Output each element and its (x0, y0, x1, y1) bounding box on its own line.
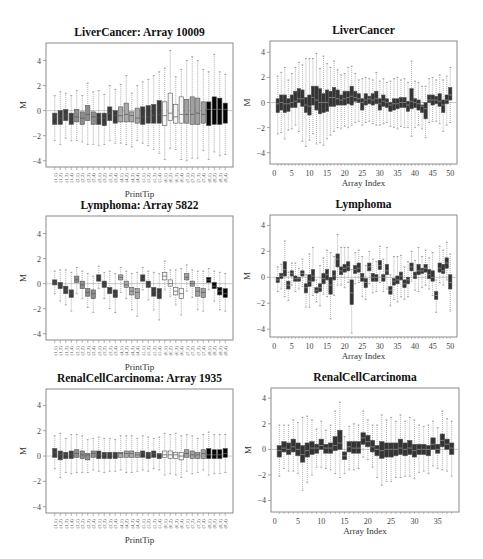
box-iqr (113, 452, 117, 458)
box-41 (420, 86, 423, 129)
box-27 (201, 69, 205, 150)
box-31 (223, 274, 227, 312)
box-iqr (389, 103, 392, 112)
box-iqr (152, 104, 156, 123)
box-8 (97, 266, 101, 289)
x-tick-label: 35 (393, 342, 401, 351)
box-36 (403, 267, 406, 299)
box-16 (332, 61, 335, 131)
box-10 (108, 271, 112, 309)
box-iqr (146, 106, 150, 124)
box-iqr (58, 451, 62, 460)
panel-renal-arrays: RenalCellCarcinoma420−2−4M05101520253035… (243, 371, 459, 536)
box-12 (318, 69, 321, 143)
y-tick-label: 2 (262, 420, 266, 429)
box-iqr (370, 440, 374, 452)
chart-title: LiverCancer (332, 24, 395, 36)
box-1 (280, 72, 283, 132)
x-tick-label: 20 (341, 342, 349, 351)
box-24 (389, 417, 393, 481)
box-17 (146, 437, 150, 471)
box-0 (276, 76, 279, 134)
box-31 (422, 426, 426, 471)
box-7 (91, 438, 95, 470)
box-28 (207, 432, 211, 475)
box-iqr (135, 289, 139, 299)
box-iqr (212, 450, 216, 459)
box-iqr (282, 442, 286, 452)
x-axis-label: PrintTip (125, 535, 155, 545)
box-iqr (297, 89, 300, 103)
box-27 (201, 435, 205, 470)
box-iqr (141, 451, 145, 457)
box-23 (384, 420, 388, 481)
box-iqr (325, 90, 328, 111)
box-21 (350, 270, 353, 334)
box-0 (277, 425, 281, 476)
box-28 (207, 269, 211, 290)
x-tick-label: 0 (272, 342, 276, 351)
box-14 (342, 437, 346, 474)
box-30 (382, 259, 385, 291)
box-11 (315, 54, 318, 144)
y-tick-label: 0 (261, 273, 265, 282)
box-9 (308, 59, 311, 141)
box-31 (385, 82, 388, 122)
box-24 (361, 79, 364, 125)
x-tick-label: 0 (272, 169, 276, 178)
box-6 (297, 268, 300, 289)
box-iqr (141, 275, 145, 281)
box-iqr (108, 452, 112, 458)
box-21 (350, 66, 353, 125)
box-4 (75, 91, 79, 141)
box-49 (449, 67, 452, 122)
y-axis-label: M (242, 98, 252, 106)
box-18 (339, 75, 342, 129)
box-iqr (69, 113, 73, 124)
box-25 (364, 266, 367, 300)
box-iqr (146, 281, 150, 287)
box-iqr (357, 94, 360, 103)
y-tick-label: −4 (256, 325, 265, 334)
box-iqr (163, 102, 167, 126)
box-38 (410, 61, 413, 136)
box-iqr (58, 111, 62, 125)
plot-frame (46, 216, 233, 340)
box-48 (445, 242, 448, 280)
box-0 (53, 96, 57, 141)
box-iqr (283, 262, 286, 276)
box-18 (361, 411, 365, 457)
x-tick-label: 5 (296, 517, 300, 526)
box-iqr (201, 289, 205, 298)
box-9 (102, 272, 106, 298)
x-tick-label: 5 (290, 169, 294, 178)
box-1 (58, 92, 62, 145)
box-iqr (315, 86, 318, 110)
box-iqr (375, 275, 378, 281)
box-18 (152, 272, 156, 310)
box-47 (442, 250, 445, 285)
panel-lymphoma-printtip: Lymphoma: Array 5822420−2−4M(1,1)(1,2)(1… (18, 199, 233, 372)
y-tick-label: 4 (261, 221, 265, 230)
box-iqr (223, 289, 227, 298)
box-41 (420, 257, 423, 288)
box-iqr (124, 281, 128, 287)
box-iqr (308, 95, 311, 115)
box-29 (212, 271, 216, 301)
box-iqr (417, 100, 420, 110)
box-iqr (398, 439, 402, 454)
box-iqr (378, 260, 381, 269)
x-tick-label: 30 (410, 517, 418, 526)
box-1 (58, 270, 62, 301)
box-13 (322, 258, 325, 294)
box-iqr (130, 112, 134, 122)
box-iqr (332, 87, 335, 106)
box-28 (408, 417, 412, 476)
box-42 (424, 250, 427, 285)
x-tick-label: 50 (446, 169, 454, 178)
box-iqr (305, 443, 309, 457)
box-18 (152, 76, 156, 150)
box-iqr (413, 99, 416, 108)
box-37 (406, 262, 409, 297)
box-iqr (364, 279, 367, 288)
